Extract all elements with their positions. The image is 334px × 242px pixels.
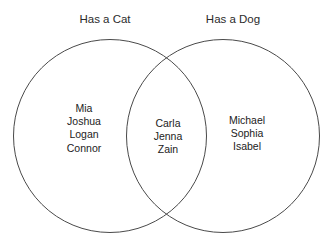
member-name: Mia	[67, 102, 101, 115]
set-label-has-a-cat: Has a Cat	[79, 12, 130, 26]
members-intersection: CarlaJennaZain	[154, 117, 183, 157]
member-name: Zain	[154, 144, 183, 157]
member-name: Logan	[67, 128, 101, 141]
venn-diagram-canvas: ··· ··· ·· ··· ·· ········· Has a Cat Ha…	[0, 0, 334, 242]
member-name: Carla	[154, 117, 183, 130]
member-name: Sophia	[229, 127, 265, 140]
set-label-has-a-dog: Has a Dog	[206, 12, 260, 26]
member-name: Isabel	[229, 141, 265, 154]
members-dog-only: MichaelSophiaIsabel	[229, 114, 265, 154]
members-cat-only: MiaJoshuaLoganConnor	[67, 102, 101, 155]
member-name: Michael	[229, 114, 265, 127]
member-name: Jenna	[154, 130, 183, 143]
member-name: Connor	[67, 141, 101, 154]
member-name: Joshua	[67, 115, 101, 128]
